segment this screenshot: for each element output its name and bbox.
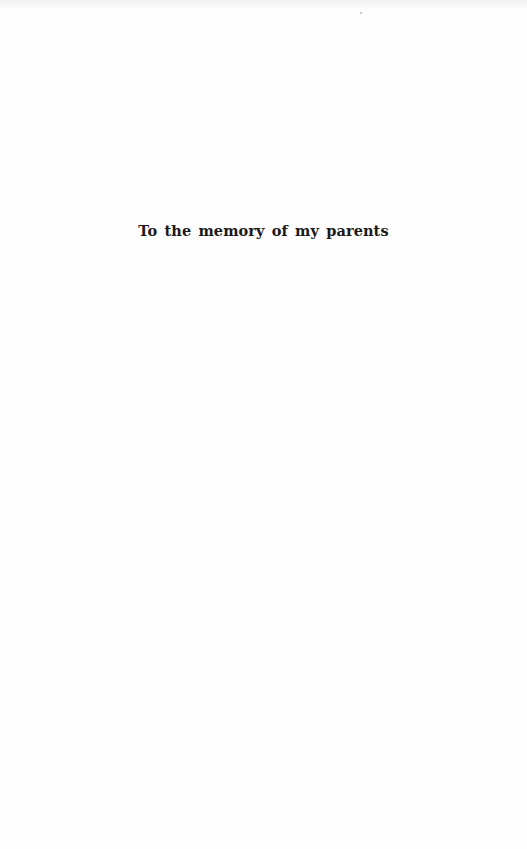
dedication-text: To the memory of my parents: [0, 222, 527, 239]
scan-speck: [360, 12, 362, 14]
scan-shadow: [0, 0, 527, 10]
book-page: To the memory of my parents: [0, 0, 527, 849]
